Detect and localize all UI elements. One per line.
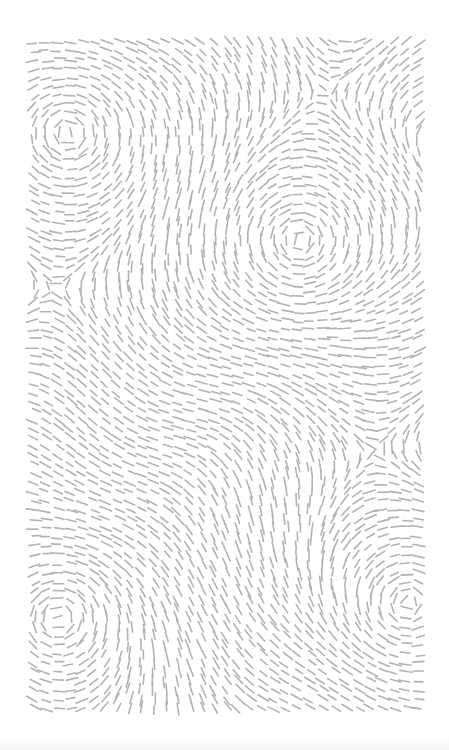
dash xyxy=(316,384,326,389)
dash xyxy=(40,679,52,683)
dash xyxy=(339,372,349,375)
dash xyxy=(64,60,76,61)
dash xyxy=(306,150,317,152)
dash xyxy=(209,299,217,308)
dash xyxy=(68,673,76,675)
dash xyxy=(55,708,64,709)
dash xyxy=(125,92,130,98)
dash xyxy=(295,594,299,603)
dash xyxy=(331,247,334,255)
dash xyxy=(177,703,179,715)
dash xyxy=(100,193,109,199)
dash xyxy=(317,659,324,664)
dash xyxy=(315,311,328,313)
dash xyxy=(101,488,111,492)
dash xyxy=(402,643,412,644)
dash xyxy=(261,227,263,236)
dash xyxy=(279,184,290,188)
dash xyxy=(67,625,74,633)
dash xyxy=(401,617,411,619)
dash xyxy=(114,500,122,503)
dash xyxy=(257,317,268,321)
dash xyxy=(102,60,110,64)
dash xyxy=(258,273,267,281)
dash xyxy=(187,444,198,448)
dash xyxy=(190,146,191,154)
dash xyxy=(137,364,144,370)
dash xyxy=(319,139,330,143)
dash xyxy=(316,166,325,169)
dash xyxy=(114,200,121,208)
dash xyxy=(249,190,254,197)
dash xyxy=(179,189,181,199)
dash xyxy=(329,129,339,136)
dash xyxy=(204,224,205,235)
dash xyxy=(343,236,344,247)
dash xyxy=(128,471,136,474)
dash xyxy=(354,200,359,208)
dash xyxy=(90,325,97,334)
dash xyxy=(381,155,388,165)
dash xyxy=(270,434,277,444)
dash xyxy=(245,661,253,669)
dash xyxy=(162,427,173,430)
dash xyxy=(80,365,87,372)
dash xyxy=(416,655,424,656)
dash xyxy=(147,437,157,441)
dash xyxy=(148,508,156,513)
dash xyxy=(137,41,148,46)
dash xyxy=(43,61,54,62)
dash xyxy=(399,347,408,350)
dash xyxy=(34,281,35,289)
dash xyxy=(256,300,266,305)
dash xyxy=(27,696,37,702)
dash xyxy=(100,526,111,531)
dash xyxy=(114,542,122,547)
dash xyxy=(54,364,64,370)
dash xyxy=(222,657,228,666)
dash xyxy=(180,146,181,155)
dash xyxy=(353,482,361,489)
dash xyxy=(247,117,249,127)
dash xyxy=(102,228,109,234)
dash xyxy=(42,581,54,584)
dash xyxy=(173,83,179,92)
dash xyxy=(342,668,352,675)
dash xyxy=(106,256,109,264)
dash xyxy=(172,473,182,479)
dash xyxy=(28,262,36,271)
dash xyxy=(137,416,148,421)
dash xyxy=(354,356,363,357)
dash xyxy=(189,234,190,247)
dash xyxy=(377,281,385,288)
dash xyxy=(148,480,158,484)
dash xyxy=(153,110,156,118)
dash xyxy=(271,532,273,541)
dash xyxy=(293,417,300,424)
dash xyxy=(307,56,314,65)
dash xyxy=(234,302,242,308)
dash xyxy=(65,633,74,639)
dash xyxy=(77,453,84,458)
dash xyxy=(174,543,180,551)
dash xyxy=(247,566,252,577)
dash xyxy=(413,399,420,404)
dash xyxy=(260,495,262,505)
dash xyxy=(327,659,337,667)
dash xyxy=(77,428,84,434)
dash xyxy=(404,293,412,298)
dash xyxy=(295,634,302,641)
dash xyxy=(317,373,327,377)
dash xyxy=(103,234,112,243)
dash xyxy=(115,398,124,405)
dash xyxy=(370,119,374,129)
dash xyxy=(282,149,290,152)
dash xyxy=(129,595,133,603)
dash xyxy=(222,579,226,587)
dash xyxy=(357,471,365,478)
dash xyxy=(238,93,239,101)
dash xyxy=(151,353,159,359)
dash xyxy=(151,532,160,539)
dash xyxy=(180,225,182,238)
dash xyxy=(234,488,238,498)
